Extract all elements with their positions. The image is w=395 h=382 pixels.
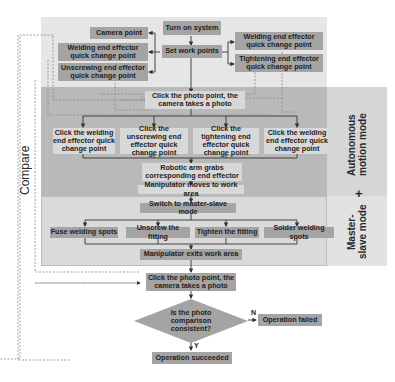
yes-label: Y	[194, 342, 199, 349]
decision-text: Is the photo comparison consistent?	[154, 310, 228, 332]
manipulator-moves-box: Manipulator moves to work area	[138, 185, 244, 194]
robot-grab-box: Robotic arm grabs corresponding end effe…	[142, 163, 242, 181]
plus-label: +	[355, 186, 363, 201]
unscrewing-point-box: Unscrewing end effector quick change poi…	[58, 63, 148, 81]
fuse-welding-box: Fuse welding spots	[50, 227, 118, 238]
unscrew-fitting-box: Unscrew the fitting	[126, 227, 190, 238]
decision-diamond: Is the photo comparison consistent?	[134, 299, 248, 343]
click-tightening-box: Click the tightening end effector quick …	[193, 128, 259, 154]
final-photo-box: Click the photo point, the camera takes …	[146, 273, 236, 291]
autonomous-mode-label: Autonomous motion mode	[346, 100, 382, 190]
welding-point-right-box: Welding end effector quick change point	[235, 32, 323, 50]
set-work-points-box: Set work points	[162, 45, 222, 58]
click-welding-box-2: Click the welding end effector quick cha…	[264, 128, 330, 154]
click-unscrewing-box: Click the unscrewing end effector quick …	[120, 128, 188, 154]
click-welding-box-1: Click the welding end effector quick cha…	[53, 128, 115, 154]
turn-on-system-box: Turn on system	[163, 21, 221, 35]
compare-label: Compare	[20, 130, 34, 210]
photo-point-box: Click the photo point, the camera takes …	[145, 91, 245, 109]
tightening-point-box: Tightening end effector quick change poi…	[235, 54, 323, 72]
switch-master-slave-box: Switch to master-slave mode	[140, 203, 236, 213]
manipulator-exits-box: Manipulator exits work area	[140, 249, 242, 260]
welding-point-left-box: Welding end effector quick change point	[58, 43, 148, 61]
master-slave-mode-label: Master-slave mode	[346, 203, 382, 261]
operation-succeeded-box: Operation succeeded	[152, 352, 232, 364]
tighten-fitting-box: Tighten the fitting	[195, 227, 259, 238]
no-label: N	[251, 309, 256, 316]
operation-failed-box: Operation failed	[258, 314, 322, 326]
camera-point-box: Camera point	[90, 27, 148, 39]
solder-welding-box: Solder welding spots	[264, 227, 334, 238]
